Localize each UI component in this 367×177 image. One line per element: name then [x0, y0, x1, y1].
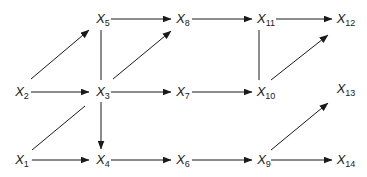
node-x1: X1	[15, 153, 29, 169]
node-x6: X6	[176, 153, 190, 169]
node-x10: X10	[257, 85, 276, 101]
node-subscript: 14	[345, 159, 355, 169]
node-x13: X13	[337, 82, 356, 98]
node-x4: X4	[96, 153, 110, 169]
node-base-label: X	[337, 11, 346, 26]
node-base-label: X	[257, 84, 266, 99]
node-base-label: X	[176, 11, 185, 26]
node-base-label: X	[337, 152, 346, 167]
node-subscript: 5	[105, 18, 110, 28]
edge-x9-x13	[271, 103, 328, 150]
node-base-label: X	[96, 84, 105, 99]
node-x14: X14	[337, 153, 356, 169]
edge-x10-x12	[271, 35, 328, 80]
node-x11: X11	[257, 12, 275, 28]
edge-x2-x5	[31, 30, 89, 79]
node-base-label: X	[257, 11, 266, 26]
node-base-label: X	[176, 84, 185, 99]
node-x9: X9	[257, 153, 271, 169]
node-subscript: 13	[345, 88, 355, 98]
causal-graph-diagram: X1X2X3X4X5X6X7X8X9X10X11X12X13X14	[0, 0, 367, 177]
node-x3: X3	[96, 85, 110, 101]
node-x12: X12	[337, 12, 356, 28]
node-x5: X5	[96, 12, 110, 28]
node-subscript: 4	[105, 159, 110, 169]
node-subscript: 12	[345, 18, 355, 28]
node-subscript: 2	[24, 91, 29, 101]
edge-x3-x8	[113, 31, 171, 79]
node-subscript: 6	[185, 159, 190, 169]
node-base-label: X	[15, 84, 24, 99]
node-base-label: X	[96, 11, 105, 26]
node-subscript: 3	[105, 91, 110, 101]
edge-x1-x3	[32, 106, 85, 150]
node-x2: X2	[15, 85, 29, 101]
node-base-label: X	[257, 152, 266, 167]
node-subscript: 8	[185, 18, 190, 28]
node-x8: X8	[176, 12, 190, 28]
node-base-label: X	[15, 152, 24, 167]
node-base-label: X	[176, 152, 185, 167]
node-subscript: 1	[24, 159, 29, 169]
node-subscript: 11	[266, 18, 275, 28]
node-subscript: 10	[265, 91, 275, 101]
node-subscript: 9	[266, 159, 271, 169]
node-subscript: 7	[185, 91, 190, 101]
node-base-label: X	[337, 81, 346, 96]
node-base-label: X	[96, 152, 105, 167]
node-x7: X7	[176, 85, 190, 101]
